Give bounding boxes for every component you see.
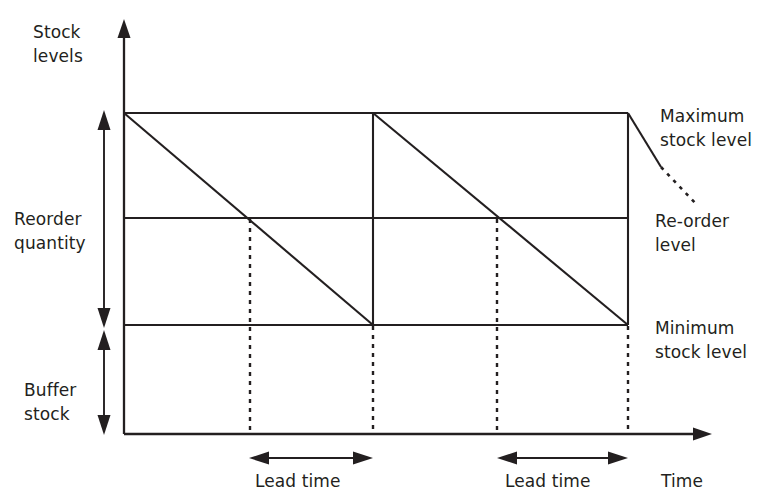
x-axis-label: Time xyxy=(660,471,703,491)
x-axis xyxy=(124,428,712,441)
y-axis-label-line2: levels xyxy=(33,46,83,66)
y-axis xyxy=(118,19,131,434)
lead-time-arrow-1 xyxy=(249,452,373,465)
maximum-stock-level-label-line1: Maximum xyxy=(660,106,744,126)
stock-control-diagram: Stock levels Time Maximum stock level Re… xyxy=(0,0,773,504)
lead-time-label-2: Lead time xyxy=(505,471,591,491)
maximum-stock-level-label-line2: stock level xyxy=(660,130,752,150)
buffer-stock-label-line2: stock xyxy=(24,404,70,424)
reorder-level-label-line2: level xyxy=(655,235,696,255)
y-axis-label-line1: Stock xyxy=(33,22,81,42)
minimum-stock-level-label-line2: stock level xyxy=(655,342,747,362)
x-axis-arrowhead xyxy=(693,428,712,441)
reorder-quantity-label-line1: Reorder xyxy=(14,209,82,229)
lead-time-arrow-2 xyxy=(497,452,628,465)
buffer-stock-label-line1: Buffer xyxy=(24,380,76,400)
reorder-quantity-measure-arrow xyxy=(98,110,111,328)
lead-time-label-1: Lead time xyxy=(255,471,341,491)
buffer-stock-measure-arrow xyxy=(98,330,111,435)
y-axis-arrowhead xyxy=(118,19,131,38)
reorder-quantity-label-line2: quantity xyxy=(14,233,86,253)
continuation-solid-segment xyxy=(628,113,661,167)
reorder-level-label-line1: Re-order xyxy=(655,211,729,231)
continuation-dotted-segment xyxy=(661,167,697,205)
diagram-canvas: Stock levels Time Maximum stock level Re… xyxy=(0,0,773,504)
minimum-stock-level-label-line1: Minimum xyxy=(655,318,734,338)
